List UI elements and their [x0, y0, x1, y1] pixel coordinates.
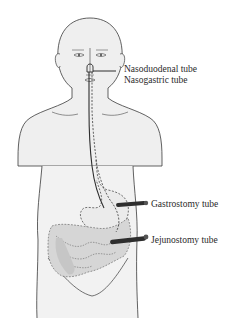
- gastrostomy-tube-label: Gastrostomy tube: [151, 199, 218, 210]
- jejunostomy-tube-label: Jejunostomy tube: [151, 235, 218, 246]
- nasoduodenal-tube-label: Nasoduodenal tube: [124, 64, 197, 75]
- anatomy-figure: [0, 0, 234, 328]
- nasogastric-tube-label: Nasogastric tube: [124, 75, 188, 86]
